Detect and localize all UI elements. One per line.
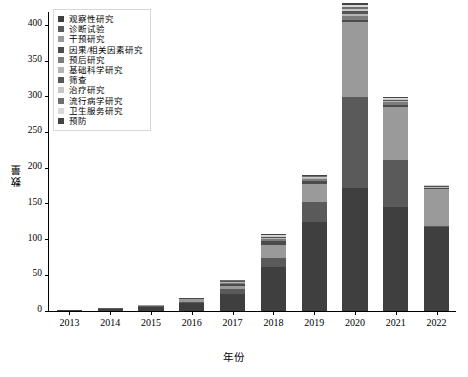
- bar-2014: [98, 308, 123, 311]
- bar-segment: [383, 97, 408, 98]
- legend-swatch-icon: [58, 77, 64, 83]
- bar-segment: [220, 280, 245, 281]
- bar-segment: [342, 9, 367, 11]
- legend-item: 预后研究: [58, 55, 143, 65]
- x-tick-mark: [396, 311, 397, 315]
- legend-label: 治疗研究: [69, 85, 105, 95]
- bar-segment: [179, 302, 204, 303]
- bar-segment: [302, 202, 327, 221]
- bar-2013: [57, 310, 82, 311]
- bar-segment: [383, 107, 408, 160]
- bar-segment: [302, 178, 327, 179]
- bar-segment: [138, 305, 163, 306]
- bar-2017: [220, 280, 245, 311]
- bar-2022: [424, 185, 449, 311]
- bar-segment: [383, 160, 408, 207]
- x-tick-label: 2013: [59, 317, 79, 328]
- y-tick-label: 100: [28, 233, 42, 243]
- bar-segment: [261, 237, 286, 238]
- legend-label: 预防: [69, 116, 87, 126]
- legend-item: 流行病学研究: [58, 96, 143, 106]
- bar-segment: [302, 222, 327, 311]
- bar-segment: [302, 175, 327, 176]
- y-tick-mark: [45, 311, 49, 312]
- y-tick-mark: [45, 61, 49, 62]
- bar-2015: [138, 305, 163, 311]
- legend-swatch-icon: [58, 36, 64, 42]
- bar-segment: [57, 310, 82, 311]
- bar-segment: [383, 100, 408, 101]
- bar-segment: [179, 298, 204, 299]
- legend-swatch-icon: [58, 47, 64, 53]
- x-tick-label: 2022: [427, 317, 447, 328]
- y-tick-label: 50: [33, 268, 43, 278]
- bar-segment: [383, 207, 408, 311]
- x-tick-label: 2015: [141, 317, 161, 328]
- x-tick-mark: [273, 311, 274, 315]
- legend-item: 卫生服务研究: [58, 106, 143, 116]
- legend-label: 卫生服务研究: [69, 106, 123, 116]
- stacked-bar-chart: 数量 年份 050100150200250300350400 201320142…: [0, 0, 468, 377]
- bar-segment: [261, 235, 286, 236]
- y-tick-label: 350: [28, 54, 42, 64]
- bar-segment: [302, 184, 327, 203]
- legend-label: 筛查: [69, 75, 87, 85]
- y-tick-mark: [45, 25, 49, 26]
- bar-segment: [220, 289, 245, 294]
- bar-segment: [342, 22, 367, 96]
- y-tick-label: 400: [28, 18, 42, 28]
- bar-segment: [138, 306, 163, 307]
- bar-segment: [302, 181, 327, 184]
- bar-segment: [261, 234, 286, 235]
- bar-segment: [342, 97, 367, 188]
- bar-segment: [342, 3, 367, 5]
- x-tick-label: 2021: [386, 317, 406, 328]
- bar-segment: [342, 16, 367, 20]
- bar-segment: [302, 177, 327, 178]
- legend-swatch-icon: [58, 67, 64, 73]
- x-tick-label: 2020: [345, 317, 365, 328]
- x-tick-mark: [110, 311, 111, 315]
- y-tick-label: 0: [37, 304, 42, 314]
- bar-segment: [342, 14, 367, 16]
- x-tick-mark: [233, 311, 234, 315]
- bar-segment: [261, 241, 286, 245]
- y-tick-mark: [45, 168, 49, 169]
- legend-label: 流行病学研究: [69, 96, 123, 106]
- x-tick-mark: [192, 311, 193, 315]
- y-tick-label: 200: [28, 161, 42, 171]
- bar-segment: [179, 303, 204, 311]
- bar-segment: [302, 175, 327, 176]
- bar-2016: [179, 298, 204, 311]
- bar-segment: [424, 187, 449, 188]
- bar-segment: [302, 179, 327, 181]
- y-tick-label: 150: [28, 197, 42, 207]
- x-tick-mark: [437, 311, 438, 315]
- bar-segment: [383, 101, 408, 102]
- legend: 观察性研究诊断试验干预研究因果/相关因素研究预后研究基础科学研究筛查治疗研究流行…: [53, 9, 151, 131]
- y-tick-mark: [45, 275, 49, 276]
- bar-segment: [342, 188, 367, 311]
- legend-label: 因果/相关因素研究: [69, 45, 143, 55]
- x-tick-label: 2014: [100, 317, 120, 328]
- bar-segment: [220, 281, 245, 282]
- bar-segment: [342, 7, 367, 9]
- x-tick-mark: [69, 311, 70, 315]
- legend-swatch-icon: [58, 26, 64, 32]
- bar-segment: [302, 177, 327, 178]
- legend-item: 观察性研究: [58, 14, 143, 24]
- bar-segment: [220, 294, 245, 311]
- y-tick-mark: [45, 239, 49, 240]
- x-tick-mark: [151, 311, 152, 315]
- bar-segment: [302, 176, 327, 177]
- bar-segment: [138, 307, 163, 311]
- bar-segment: [383, 98, 408, 99]
- y-tick-mark: [45, 96, 49, 97]
- legend-swatch-icon: [58, 57, 64, 63]
- bar-segment: [424, 187, 449, 188]
- bar-segment: [383, 105, 408, 107]
- legend-item: 预防: [58, 116, 143, 126]
- legend-item: 因果/相关因素研究: [58, 45, 143, 55]
- bar-segment: [220, 284, 245, 286]
- legend-label: 干预研究: [69, 34, 105, 44]
